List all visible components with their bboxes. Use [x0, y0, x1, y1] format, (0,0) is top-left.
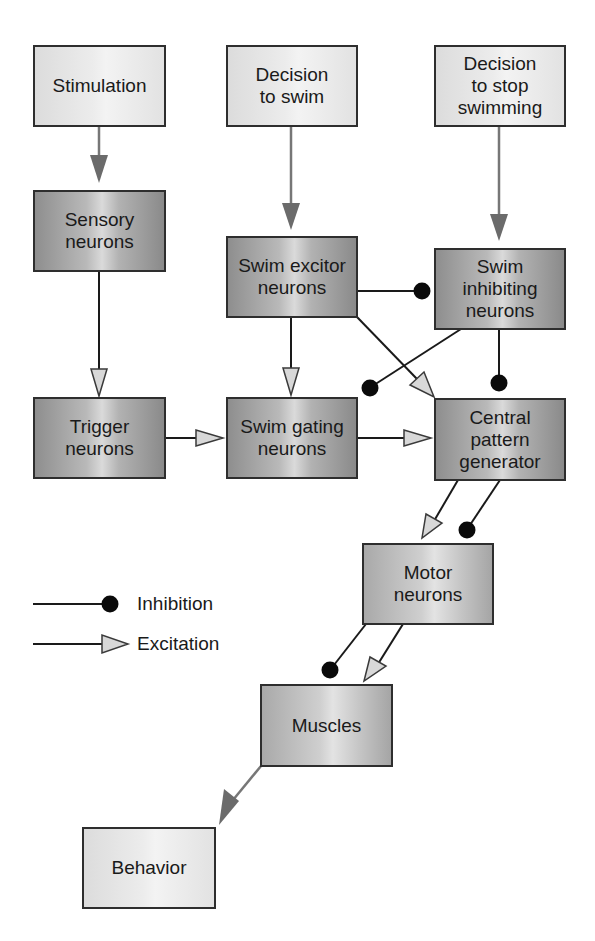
excitation-gating-cpg	[357, 430, 431, 446]
node-motor-neurons: Motor neurons	[362, 543, 494, 625]
node-central-pattern-generator: Central pattern generator	[434, 398, 566, 481]
node-decision-to-stop-swimming: Decision to stop swimming	[434, 45, 566, 127]
legend-inhibition-symbol	[33, 596, 119, 613]
legend-excitation-symbol	[33, 635, 128, 653]
legend-inhibition-label: Inhibition	[137, 593, 213, 615]
input-arrow-stimulation-sensory	[90, 126, 108, 183]
excitation-cpg-motor	[422, 480, 458, 538]
swim-circuit-diagram: Stimulation Decision to swim Decision to…	[0, 0, 595, 941]
legend-excitation-label: Excitation	[137, 633, 219, 655]
inhibition-excitor-inhibiting	[357, 283, 431, 300]
excitation-excitor-gating	[283, 317, 299, 395]
node-decision-to-swim: Decision to swim	[226, 45, 358, 127]
inhibition-inhibiting-cpg	[491, 329, 508, 392]
node-swim-gating-neurons: Swim gating neurons	[226, 397, 358, 479]
node-stimulation: Stimulation	[33, 45, 166, 127]
inhibition-motor-muscles	[322, 624, 367, 679]
node-swim-inhibiting-neurons: Swim inhibiting neurons	[434, 248, 566, 330]
excitation-trigger-gating	[165, 430, 223, 446]
node-swim-excitor-neurons: Swim excitor neurons	[226, 236, 358, 318]
node-sensory-neurons: Sensory neurons	[33, 190, 166, 272]
node-muscles: Muscles	[260, 684, 393, 767]
input-arrow-decision-swim-excitor	[282, 126, 300, 230]
input-arrow-muscles-behavior	[219, 766, 261, 825]
input-arrow-decision-stop-inhibiting	[490, 126, 508, 241]
node-trigger-neurons: Trigger neurons	[33, 397, 166, 479]
excitation-motor-muscles	[364, 624, 403, 681]
inhibition-cpg-motor	[459, 480, 501, 539]
excitation-sensory-trigger	[91, 271, 107, 396]
node-behavior: Behavior	[82, 827, 216, 909]
